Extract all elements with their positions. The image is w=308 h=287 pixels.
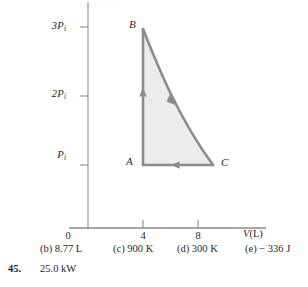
answer-d: (d) 300 K xyxy=(177,243,218,254)
y-tick-pi-symbol: P xyxy=(57,149,64,160)
x-tick-label-8: 8 xyxy=(188,230,208,241)
x-tick-label-4: 4 xyxy=(133,230,153,241)
answer-b: (b) 8.77 L xyxy=(40,243,82,254)
problem-number: 45. xyxy=(8,263,21,274)
problem-answer: 25.0 kW xyxy=(40,263,76,274)
pv-diagram-figure: (a) 4 3Pi 2Pi Pi 0 4 8 xyxy=(0,0,308,240)
y-tick-3pi-subscript: i xyxy=(64,24,66,33)
pv-diagram-canvas xyxy=(0,0,308,240)
x-axis-title: V(L) xyxy=(243,228,263,239)
clipped-caption-top: (a) 4 xyxy=(100,0,119,7)
y-tick-2pi-subscript: i xyxy=(64,92,66,101)
point-label-c: C xyxy=(221,156,228,168)
point-label-a: A xyxy=(126,155,133,167)
cycle-shaded-region xyxy=(143,29,213,165)
y-tick-2pi-symbol: P xyxy=(57,88,64,99)
y-tick-label-2pi: 2Pi xyxy=(26,88,66,101)
y-tick-label-pi: Pi xyxy=(26,149,66,162)
x-axis-title-unit: (L) xyxy=(249,228,262,239)
y-tick-pi-subscript: i xyxy=(64,153,66,162)
y-tick-label-3pi: 3Pi xyxy=(26,20,66,33)
point-label-b: B xyxy=(129,18,136,30)
answer-e: (e) − 336 J xyxy=(245,243,290,254)
x-tick-label-0: 0 xyxy=(58,230,78,241)
y-tick-3pi-symbol: P xyxy=(57,20,64,31)
answer-c: (c) 900 K xyxy=(113,243,153,254)
